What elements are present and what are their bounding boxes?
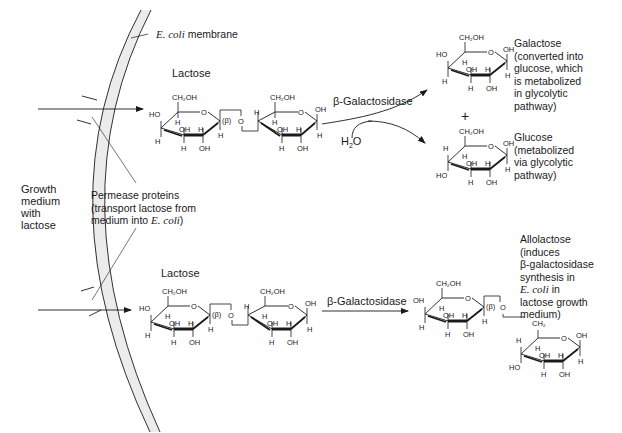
svg-text:O: O <box>238 117 244 126</box>
svg-text:(β): (β) <box>222 116 232 125</box>
svg-text:CH₂OH: CH₂OH <box>260 287 285 296</box>
svg-text:OH: OH <box>486 84 497 93</box>
svg-text:H: H <box>445 330 450 339</box>
bottom-lactose-label: Lactose <box>161 267 200 280</box>
svg-text:O: O <box>465 294 471 303</box>
svg-text:OH: OH <box>463 330 474 339</box>
top-lactose-structure: CH₂OH O HO H OH H H H OH (β) H O <box>149 93 326 153</box>
glucose-label: Glucose (metabolized via glycolytic path… <box>514 131 574 181</box>
svg-text:CH₂OH: CH₂OH <box>162 287 187 296</box>
svg-text:O: O <box>500 303 506 312</box>
svg-text:OH: OH <box>559 370 570 379</box>
glucose-ring: CH₂OH O H H OH H H OH OH H <box>254 93 326 153</box>
svg-text:OH: OH <box>305 299 316 308</box>
svg-text:H: H <box>171 338 176 347</box>
svg-text:H: H <box>198 125 203 134</box>
permease-protein-top-edge-a <box>82 96 97 100</box>
svg-text:H: H <box>505 165 510 174</box>
permease-protein-bottom-edge-b <box>89 310 101 316</box>
svg-text:OH: OH <box>466 65 477 74</box>
growth-medium-label: Growth medium with lactose <box>21 183 60 231</box>
svg-text:H: H <box>307 325 312 334</box>
svg-text:H: H <box>208 325 213 334</box>
svg-text:O: O <box>201 108 207 117</box>
svg-text:CH₂OH: CH₂OH <box>436 279 461 288</box>
svg-text:H: H <box>181 144 186 153</box>
water-label: H2O <box>341 135 361 153</box>
svg-text:CH₂OH: CH₂OH <box>459 127 484 136</box>
svg-text:H: H <box>558 351 563 360</box>
svg-text:H: H <box>419 323 424 332</box>
svg-text:H: H <box>269 338 274 347</box>
svg-text:H: H <box>485 65 490 74</box>
svg-text:O: O <box>488 48 494 57</box>
svg-text:H: H <box>462 311 467 320</box>
galactose-label: Galactose (converted into glucose, which… <box>514 37 583 112</box>
membrane-label: E. coli membrane <box>156 28 238 41</box>
svg-text:HO: HO <box>139 304 150 313</box>
plus-sign: + <box>461 110 469 123</box>
svg-text:O: O <box>228 311 234 320</box>
svg-text:H: H <box>505 71 510 80</box>
svg-text:OH: OH <box>443 311 454 320</box>
svg-text:OH: OH <box>267 319 278 328</box>
permease-protein-top-edge-b <box>77 120 91 124</box>
svg-text:OH: OH <box>199 144 210 153</box>
svg-text:HO: HO <box>509 363 520 372</box>
svg-text:(β): (β) <box>486 302 496 311</box>
svg-text:OH: OH <box>169 319 180 328</box>
allolactose-glucose-ring: CH₂ O H H OH H HO H OH OH H <box>509 319 587 379</box>
svg-text:H: H <box>443 144 448 153</box>
glucose-product-structure: CH₂OH O H H OH H HO H OH OH H <box>436 127 514 187</box>
svg-text:CH₂OH: CH₂OH <box>172 93 197 102</box>
galactose-ring: CH₂OH O HO H OH H H H OH (β) H <box>149 93 232 153</box>
top-enzyme-label: β-Galactosidase <box>333 95 413 108</box>
svg-text:O: O <box>298 108 304 117</box>
svg-text:H: H <box>468 178 473 187</box>
svg-text:H: H <box>578 357 583 366</box>
svg-text:H: H <box>279 144 284 153</box>
svg-text:OH: OH <box>486 178 497 187</box>
svg-text:OH: OH <box>179 125 190 134</box>
svg-text:H: H <box>482 317 487 326</box>
svg-text:OH: OH <box>189 338 200 347</box>
svg-text:OH: OH <box>297 144 308 153</box>
svg-text:H: H <box>485 159 490 168</box>
top-lactose-label: Lactose <box>172 67 211 80</box>
svg-text:H: H <box>188 319 193 328</box>
svg-text:OH: OH <box>315 105 326 114</box>
svg-text:O: O <box>288 302 294 311</box>
svg-text:O: O <box>561 334 567 343</box>
svg-text:H: H <box>468 84 473 93</box>
bottom-enzyme-label: β-Galactosidase <box>327 295 407 308</box>
svg-text:OH: OH <box>539 351 550 360</box>
allolactose-label: Allolactose (induces β-galactosidase syn… <box>520 233 594 321</box>
lactose-metabolism-diagram: CH₂OH O HO H OH H H H OH (β) H O <box>0 0 622 433</box>
svg-text:CH₂OH: CH₂OH <box>459 33 484 42</box>
svg-text:H: H <box>155 137 160 146</box>
svg-text:H: H <box>286 319 291 328</box>
svg-text:H: H <box>541 370 546 379</box>
svg-text:O: O <box>488 142 494 151</box>
permease-protein-bottom-edge-a <box>81 287 94 291</box>
svg-text:H: H <box>296 125 301 134</box>
bottom-lactose-structure: CH₂OH O HO H OH H H H OH (β) H O CH₂OH O… <box>139 287 316 347</box>
svg-text:H: H <box>516 336 521 345</box>
svg-text:HO: HO <box>149 110 160 119</box>
svg-text:H: H <box>218 131 223 140</box>
svg-text:H: H <box>442 77 447 86</box>
svg-text:H: H <box>244 302 249 311</box>
svg-text:OH: OH <box>466 159 477 168</box>
permease-label: Permease proteins (transport lactose fro… <box>91 189 196 227</box>
svg-text:HO: HO <box>436 50 447 59</box>
svg-text:OH: OH <box>413 296 424 305</box>
hydrolysis-arrow-glucose <box>368 121 425 143</box>
svg-text:OH: OH <box>287 338 298 347</box>
svg-text:O: O <box>191 302 197 311</box>
svg-text:H: H <box>145 331 150 340</box>
svg-text:OH: OH <box>503 45 514 54</box>
galactose-product-structure: CH₂OH O HO H OH H H H OH OH H <box>436 33 514 93</box>
svg-text:OH: OH <box>576 331 587 340</box>
svg-text:(β): (β) <box>212 310 222 319</box>
svg-text:HO: HO <box>436 171 447 180</box>
